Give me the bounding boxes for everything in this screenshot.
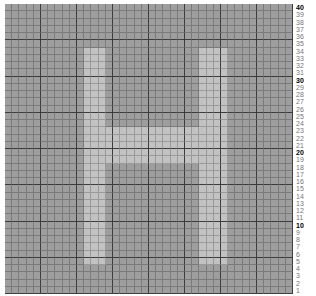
grid-cell — [84, 142, 91, 149]
grid-cell — [178, 280, 185, 287]
grid-cell — [264, 91, 271, 98]
grid-cell — [235, 120, 242, 127]
grid-cell — [149, 185, 156, 192]
grid-cell — [271, 265, 278, 272]
grid-cell — [70, 91, 77, 98]
grid-cell — [70, 251, 77, 258]
grid-cell — [120, 280, 127, 287]
grid-cell — [264, 287, 271, 294]
grid-cell — [163, 11, 170, 18]
grid-cell — [185, 4, 192, 11]
grid-cell — [5, 280, 12, 287]
grid-cell — [149, 193, 156, 200]
grid-cell — [156, 48, 163, 55]
grid-cell — [77, 272, 84, 279]
grid-cell — [235, 106, 242, 113]
grid-cell — [91, 120, 98, 127]
grid-cell — [156, 251, 163, 258]
grid-cell — [41, 55, 48, 62]
grid-cell — [264, 98, 271, 105]
grid-cell — [271, 200, 278, 207]
grid-cell — [127, 48, 134, 55]
grid-cell — [214, 77, 221, 84]
grid-cell — [228, 48, 235, 55]
grid-cell — [5, 40, 12, 47]
grid-cell — [142, 280, 149, 287]
grid-cell — [228, 243, 235, 250]
grid-cell — [214, 156, 221, 163]
grid-cell — [70, 120, 77, 127]
grid-cell — [178, 243, 185, 250]
grid-cell — [27, 69, 34, 76]
grid-cell — [84, 265, 91, 272]
grid-cell — [279, 127, 286, 134]
grid-cell — [91, 207, 98, 214]
grid-cell — [91, 91, 98, 98]
grid-cell — [99, 113, 106, 120]
grid-cell — [243, 26, 250, 33]
grid-cell — [106, 62, 113, 69]
grid-cell — [207, 127, 214, 134]
grid-cell — [257, 236, 264, 243]
grid-cell — [185, 19, 192, 26]
grid-cell — [55, 214, 62, 221]
row-label: 19 — [295, 156, 316, 163]
grid-cell — [185, 48, 192, 55]
grid-cell — [257, 214, 264, 221]
grid-cell — [19, 33, 26, 40]
grid-cell — [55, 149, 62, 156]
grid-cell — [127, 265, 134, 272]
grid-cell — [235, 207, 242, 214]
grid-cell — [221, 287, 228, 294]
grid-cell — [250, 229, 257, 236]
grid-cell — [163, 272, 170, 279]
grid-cell — [228, 207, 235, 214]
grid-cell — [5, 77, 12, 84]
grid-cell — [70, 229, 77, 236]
grid-cell — [48, 77, 55, 84]
grid-cell — [171, 106, 178, 113]
grid-cell — [163, 200, 170, 207]
grid-cell — [214, 265, 221, 272]
grid-cell — [207, 4, 214, 11]
grid-cell — [171, 272, 178, 279]
grid-cell — [113, 236, 120, 243]
grid-cell — [63, 156, 70, 163]
grid-cell — [243, 55, 250, 62]
grid-cell — [163, 84, 170, 91]
grid-cell — [48, 106, 55, 113]
grid-cell — [91, 214, 98, 221]
grid-cell — [250, 98, 257, 105]
grid-cell — [135, 287, 142, 294]
grid-cell — [228, 62, 235, 69]
grid-cell — [127, 4, 134, 11]
grid-cell — [235, 156, 242, 163]
grid-cell — [243, 164, 250, 171]
grid-cell — [34, 113, 41, 120]
grid-cell — [135, 98, 142, 105]
grid-cell — [214, 98, 221, 105]
grid-cell — [185, 207, 192, 214]
grid-cell — [77, 229, 84, 236]
grid-cell — [279, 185, 286, 192]
grid-cell — [5, 207, 12, 214]
grid-cell — [214, 55, 221, 62]
grid-cell — [171, 91, 178, 98]
grid-cell — [127, 258, 134, 265]
grid-cell — [113, 106, 120, 113]
grid-cell — [127, 120, 134, 127]
grid-cell — [192, 69, 199, 76]
grid-cell — [34, 120, 41, 127]
grid-cell — [286, 91, 293, 98]
grid-cell — [286, 258, 293, 265]
grid-cell — [99, 265, 106, 272]
grid-cell — [199, 164, 206, 171]
grid-cell — [221, 77, 228, 84]
grid-cell — [221, 171, 228, 178]
grid-cell — [171, 236, 178, 243]
grid-cell — [55, 26, 62, 33]
grid-cell — [55, 91, 62, 98]
grid-cell — [142, 120, 149, 127]
grid-cell — [55, 272, 62, 279]
grid-cell — [63, 127, 70, 134]
